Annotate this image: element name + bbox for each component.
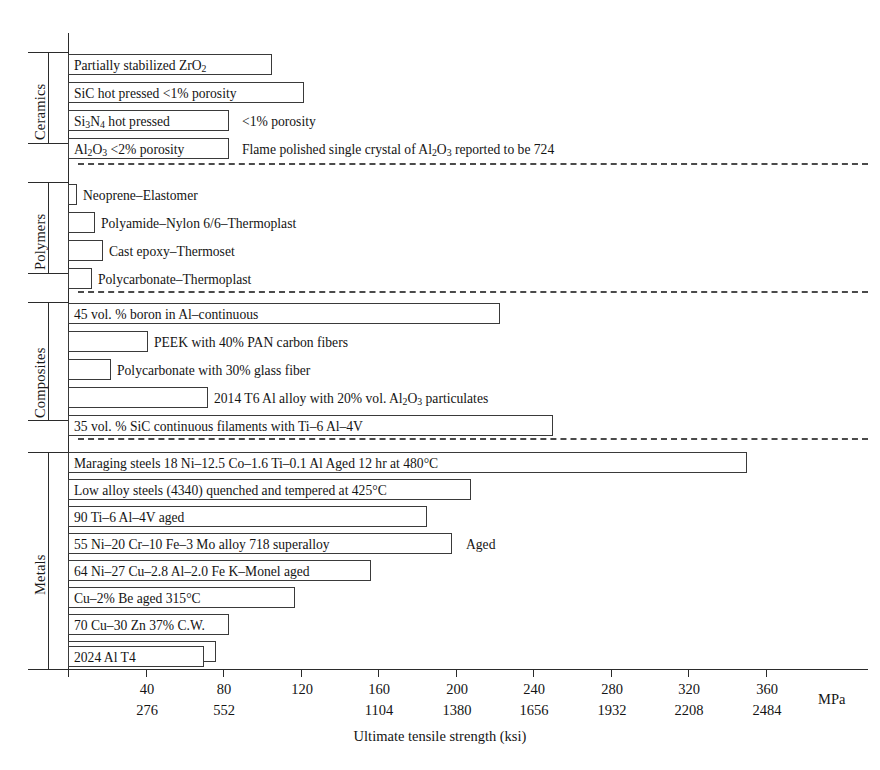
bar-label-text-2: N: [90, 114, 100, 129]
bar-label-ceramics-sic: SiC hot pressed <1% porosity: [74, 87, 236, 101]
bar-label-polymers-neoprene: Neoprene–Elastomer: [83, 189, 198, 203]
group-label-polymers: Polymers: [32, 188, 49, 270]
x-tick-label-ksi-200: 200: [427, 681, 487, 698]
x-tick-label-ksi-40: 40: [117, 681, 177, 698]
x-tick-label-ksi-320: 320: [659, 681, 719, 698]
bar-label-metals-2024-al-t4: 2024 Al T4: [74, 651, 136, 665]
x-tick-240: [533, 670, 534, 677]
annotation-al2o3-flame-polished: Flame polished single crystal of Al2O3 r…: [242, 143, 554, 158]
group-label-metals: Metals: [32, 525, 49, 595]
annotation-si3n4-porosity: <1% porosity: [242, 115, 316, 129]
annotation-718-aged: Aged: [466, 538, 495, 552]
x-tick-label-ksi-240: 240: [504, 681, 564, 698]
separator-ceramics-polymers: [78, 163, 868, 165]
bar-label-metals-cu-be: Cu–2% Be aged 315°C: [74, 592, 201, 606]
bar-polymers-polyamide[interactable]: [68, 212, 95, 233]
bar-label-metals-ti-6al-4v: 90 Ti–6 Al–4V aged: [74, 511, 184, 525]
bar-label-text: Al: [74, 142, 88, 157]
bar-label-polymers-cast-epoxy: Cast epoxy–Thermoset: [109, 245, 235, 259]
annotation-text-3: reported to be 724: [452, 142, 555, 157]
bar-label-text-3: hot pressed: [105, 114, 170, 129]
bar-label-composites-peek: PEEK with 40% PAN carbon fibers: [154, 336, 348, 350]
bar-label-text: Partially stabilized ZrO: [74, 58, 202, 73]
bar-label-metals-k-monel: 64 Ni–27 Cu–2.8 Al–2.0 Fe K–Monel aged: [74, 565, 310, 579]
bracket-polymers-top: [28, 182, 69, 183]
bar-label-polymers-polyamide: Polyamide–Nylon 6/6–Thermoplast: [101, 217, 296, 231]
bar-label-metals-maraging-steel: Maraging steels 18 Ni–12.5 Co–1.6 Ti–0.1…: [74, 457, 438, 471]
bar-label-composites-boron-al: 45 vol. % boron in Al–continuous: [74, 308, 258, 322]
group-label-ceramics: Ceramics: [32, 60, 49, 140]
x-axis-title: Ultimate tensile strength (ksi): [0, 728, 880, 745]
bracket-ceramics-bottom: [28, 143, 69, 144]
x-tick-label-mpa-552: 552: [194, 702, 254, 719]
bar-label-text-3: <2% porosity: [107, 142, 184, 157]
subscript-2: 2: [202, 63, 207, 74]
separator-polymers-composites: [78, 291, 868, 293]
bar-label-ceramics-al2o3: Al2O3 <2% porosity: [74, 143, 184, 158]
bar-label-text-2: O: [407, 391, 417, 406]
x-tick-label-mpa-2208: 2208: [659, 702, 719, 719]
x-tick-label-mpa-1104: 1104: [349, 702, 409, 719]
bracket-polymers-bottom: [28, 273, 69, 274]
bar-composites-2014-t6[interactable]: [68, 387, 208, 408]
bracket-metals-top: [28, 452, 69, 453]
bar-label-metals-low-alloy-4340: Low alloy steels (4340) quenched and tem…: [74, 484, 387, 498]
annotation-text: Flame polished single crystal of Al: [242, 142, 432, 157]
bar-label-ceramics-si3n4: Si3N4 hot pressed: [74, 115, 170, 130]
annotation-text-2: O: [437, 142, 447, 157]
bar-label-metals-cu-zn: 70 Cu–30 Zn 37% C.W.: [74, 619, 205, 633]
x-tick-label-mpa-1380: 1380: [427, 702, 487, 719]
x-tick-label-ksi-360: 360: [737, 681, 797, 698]
separator-composites-metals: [78, 438, 868, 440]
x-tick-80: [223, 670, 224, 677]
x-tick-label-ksi-280: 280: [582, 681, 642, 698]
x-tick-120: [301, 670, 302, 677]
bar-label-composites-sic-ti: 35 vol. % SiC continuous filaments with …: [74, 420, 363, 434]
x-tick-0: [68, 670, 69, 677]
bracket-metals-bottom: [28, 669, 69, 670]
x-tick-360: [766, 670, 767, 677]
bar-label-polymers-polycarbonate: Polycarbonate–Thermoplast: [98, 273, 251, 287]
x-tick-label-mpa-2484: 2484: [737, 702, 797, 719]
bar-composites-polycarbonate-glass[interactable]: [68, 359, 111, 380]
x-tick-label-mpa-1932: 1932: [582, 702, 642, 719]
bar-label-text-3: particulates: [422, 391, 488, 406]
chart-canvas: Ceramics Polymers Composites Metals Part…: [0, 0, 880, 770]
bar-label-text: Si: [74, 114, 85, 129]
x-tick-label-ksi-160: 160: [349, 681, 409, 698]
x-tick-160: [378, 670, 379, 677]
bracket-composites-top: [28, 302, 69, 303]
bar-label-composites-polycarbonate-glass: Polycarbonate with 30% glass fiber: [117, 364, 310, 378]
bar-polymers-cast-epoxy[interactable]: [68, 240, 103, 261]
x-tick-label-ksi-120: 120: [272, 681, 332, 698]
bracket-ceramics-top: [28, 52, 69, 53]
x-tick-label-ksi-80: 80: [194, 681, 254, 698]
bar-composites-peek[interactable]: [68, 331, 148, 352]
bar-polymers-neoprene[interactable]: [68, 184, 77, 205]
x-tick-320: [688, 670, 689, 677]
x-tick-label-mpa-1656: 1656: [504, 702, 564, 719]
bar-label-text: 2014 T6 Al alloy with 20% vol. Al: [214, 391, 403, 406]
x-tick-40: [146, 670, 147, 677]
group-label-composites: Composites: [32, 306, 49, 418]
bar-label-text-2: O: [92, 142, 102, 157]
bracket-composites-bottom: [28, 420, 69, 421]
bar-polymers-polycarbonate[interactable]: [68, 268, 92, 289]
x-tick-label-mpa-276: 276: [117, 702, 177, 719]
bar-label-composites-2014-t6: 2014 T6 Al alloy with 20% vol. Al2O3 par…: [214, 392, 488, 407]
bar-label-metals-718-superalloy: 55 Ni–20 Cr–10 Fe–3 Mo alloy 718 superal…: [74, 538, 330, 552]
bar-label-ceramics-zro2: Partially stabilized ZrO2: [74, 59, 207, 74]
axis-unit-mpa: MPa: [818, 691, 845, 708]
x-tick-280: [611, 670, 612, 677]
x-tick-200: [456, 670, 457, 677]
x-axis-line: [68, 669, 868, 670]
